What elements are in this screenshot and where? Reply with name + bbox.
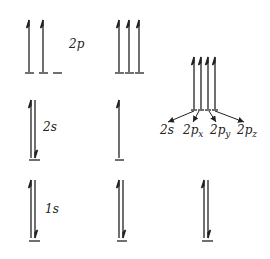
col3-hybrid-level [191,57,218,110]
label-hybrid-2px: 2px [183,124,203,139]
label-1s: 1s [45,203,59,215]
col1-1s-level [29,180,41,241]
label-hybrid-2py: 2py [210,124,230,139]
col2-1s-level [117,180,128,241]
col2-2s-level [115,100,124,160]
col2-2p-level [115,20,144,73]
col3-1s-level [202,180,214,241]
col1-2p-level [25,20,62,73]
label-hybrid-2pz: 2pz [237,124,257,139]
col3-component-arrows [168,111,244,122]
label-2s: 2s [43,121,57,133]
label-2p: 2p [69,38,84,50]
col1-2s-level [29,100,41,160]
label-hybrid-2s: 2s [160,124,174,136]
